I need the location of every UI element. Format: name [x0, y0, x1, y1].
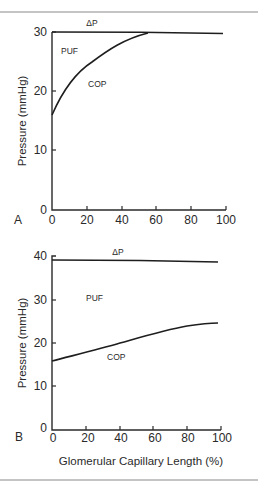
- chart-a-xtick-label: 20: [80, 213, 94, 227]
- chart-a-ylabel: Pressure (mmHg): [16, 75, 28, 166]
- chart-a-xtick-label: 60: [149, 213, 163, 227]
- chart-a-delta-p-line: [52, 32, 223, 34]
- chart-b-ytick-label: 10: [34, 379, 48, 393]
- chart-a-axes: [52, 32, 226, 210]
- chart-a-xtick-label: 40: [115, 213, 129, 227]
- chart-a: 30 20 10 0 0 20 40 60 80 100 Pressure (m…: [14, 18, 236, 227]
- chart-b-delta-p-label: ΔP: [112, 247, 124, 257]
- chart-a-ytick-label: 10: [34, 143, 48, 157]
- chart-a-xtick-label: 80: [184, 213, 198, 227]
- chart-a-ytick-label: 20: [34, 84, 48, 98]
- chart-a-puf-label: PUF: [61, 46, 78, 56]
- chart-b-xtick-label: 40: [114, 431, 128, 445]
- figure: 30 20 10 0 0 20 40 60 80 100 Pressure (m…: [0, 0, 268, 483]
- chart-b-puf-label: PUF: [86, 293, 103, 303]
- chart-b-xtick-label: 60: [148, 431, 162, 445]
- chart-b-xtick-label: 100: [212, 431, 232, 445]
- chart-b: 40 30 20 10 0 0 20 40 60 80 100 Pressure…: [15, 247, 232, 467]
- chart-b-ytick-label: 20: [34, 336, 48, 350]
- chart-b-ytick-label: 0: [40, 421, 47, 435]
- chart-b-xlabel: Glomerular Capillary Length (%): [59, 455, 223, 467]
- chart-b-xtick-label: 0: [50, 431, 57, 445]
- chart-a-ytick-label: 30: [34, 25, 48, 39]
- chart-b-ytick-label: 30: [34, 293, 48, 307]
- chart-b-panel-label: B: [15, 430, 23, 444]
- chart-b-delta-p-line: [52, 260, 218, 262]
- chart-a-delta-p-label: ΔP: [86, 18, 98, 28]
- chart-a-xtick-label: 100: [216, 213, 236, 227]
- chart-b-ylabel: Pressure (mmHg): [16, 297, 28, 388]
- chart-b-axes: [52, 256, 221, 430]
- chart-b-cop-label: COP: [107, 352, 126, 362]
- chart-b-xtick-label: 80: [181, 431, 195, 445]
- chart-b-ytick-label: 40: [34, 249, 48, 263]
- chart-a-panel-label: A: [14, 213, 22, 227]
- chart-b-cop-curve: [52, 323, 218, 361]
- chart-a-xtick-label: 0: [49, 213, 56, 227]
- chart-b-xtick-label: 20: [81, 431, 95, 445]
- chart-a-cop-label: COP: [88, 79, 107, 89]
- chart-a-ytick-label: 0: [40, 203, 47, 217]
